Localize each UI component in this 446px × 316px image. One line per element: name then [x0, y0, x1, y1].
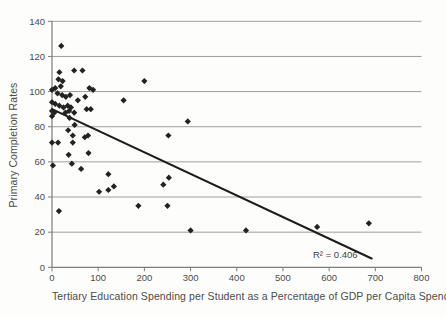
data-point: [141, 78, 147, 84]
x-tick-label: 700: [367, 272, 383, 283]
data-point: [58, 43, 64, 49]
scatter-plot: 0100200300400500600700800020406080100120…: [0, 0, 446, 316]
x-tick-label: 800: [414, 272, 430, 283]
x-tick-label: 600: [321, 272, 337, 283]
r-squared-label: R² = 0.406: [313, 249, 358, 260]
data-point: [50, 162, 56, 168]
chart-figure: 0100200300400500600700800020406080100120…: [0, 0, 446, 316]
data-point: [166, 175, 172, 181]
trend-line: [52, 109, 372, 258]
data-point: [314, 224, 320, 230]
y-axis-label: Primary Completion Rates: [7, 29, 21, 261]
x-tick-label: 100: [90, 272, 106, 283]
data-point: [71, 67, 77, 73]
x-tick-label: 400: [229, 272, 245, 283]
y-tick-label: 120: [29, 51, 45, 62]
data-point: [56, 208, 62, 214]
data-point: [111, 183, 117, 189]
data-point: [65, 127, 71, 133]
data-point: [105, 171, 111, 177]
data-point: [79, 67, 85, 73]
x-tick-label: 500: [275, 272, 291, 283]
data-point: [185, 118, 191, 124]
data-point: [70, 139, 76, 145]
data-point: [164, 203, 170, 209]
data-point: [120, 97, 126, 103]
data-point: [66, 152, 72, 158]
data-point: [78, 166, 84, 172]
y-tick-label: 40: [34, 191, 45, 202]
y-tick-label: 0: [40, 262, 45, 273]
data-point: [71, 110, 77, 116]
data-point: [75, 97, 81, 103]
data-point: [58, 83, 64, 89]
x-tick-label: 0: [49, 272, 54, 283]
data-point: [160, 182, 166, 188]
data-point: [70, 132, 76, 138]
x-tick-label: 300: [183, 272, 199, 283]
data-point: [56, 69, 62, 75]
data-point: [366, 220, 372, 226]
y-tick-label: 60: [34, 156, 45, 167]
y-tick-label: 100: [29, 86, 45, 97]
data-point: [96, 189, 102, 195]
y-tick-label: 20: [34, 226, 45, 237]
x-axis-label: Tertiary Education Spending per Student …: [52, 290, 432, 302]
x-tick-label: 200: [136, 272, 152, 283]
y-tick-label: 140: [29, 16, 45, 27]
data-point: [82, 94, 88, 100]
data-point: [55, 139, 61, 145]
data-point: [85, 150, 91, 156]
data-point: [49, 139, 55, 145]
data-point: [165, 132, 171, 138]
data-point: [135, 203, 141, 209]
y-tick-label: 80: [34, 121, 45, 132]
data-point: [105, 187, 111, 193]
data-point: [88, 106, 94, 112]
